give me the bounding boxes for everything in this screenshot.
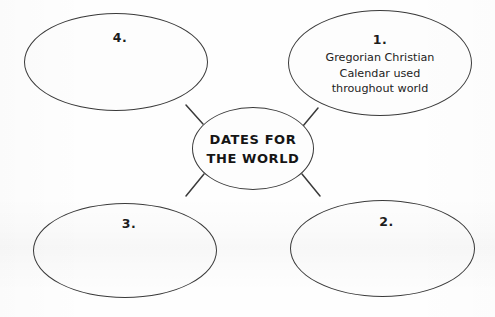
node-1-text-line-3: throughout world	[304, 81, 457, 97]
node-2-number: 2.	[291, 214, 474, 229]
connector-center-to-node-4	[186, 105, 203, 124]
center-topic-label: DATES FOR THE WORLD	[200, 130, 306, 168]
node-4-number: 4.	[25, 30, 207, 45]
worksheet-canvas: 4. 1. Gregorian Christian Calendar used …	[0, 0, 495, 317]
connector-center-to-node-1	[303, 108, 318, 126]
node-1-number: 1.	[289, 32, 471, 47]
concept-node-1[interactable]: 1. Gregorian Christian Calendar used thr…	[288, 10, 472, 116]
node-1-text-line-2: Calendar used	[304, 66, 457, 82]
connector-center-to-node-2	[302, 174, 320, 196]
node-1-text: Gregorian Christian Calendar used throug…	[304, 50, 457, 97]
concept-node-4[interactable]: 4.	[24, 13, 208, 111]
node-1-text-line-1: Gregorian Christian	[304, 50, 457, 66]
center-topic-node[interactable]: DATES FOR THE WORLD	[192, 107, 314, 190]
concept-node-3[interactable]: 3.	[33, 203, 217, 298]
center-topic-line-2: THE WORLD	[200, 149, 306, 168]
node-3-number: 3.	[34, 216, 216, 231]
center-topic-line-1: DATES FOR	[200, 130, 306, 149]
connector-center-to-node-3	[186, 174, 204, 196]
concept-node-2[interactable]: 2.	[290, 200, 475, 297]
